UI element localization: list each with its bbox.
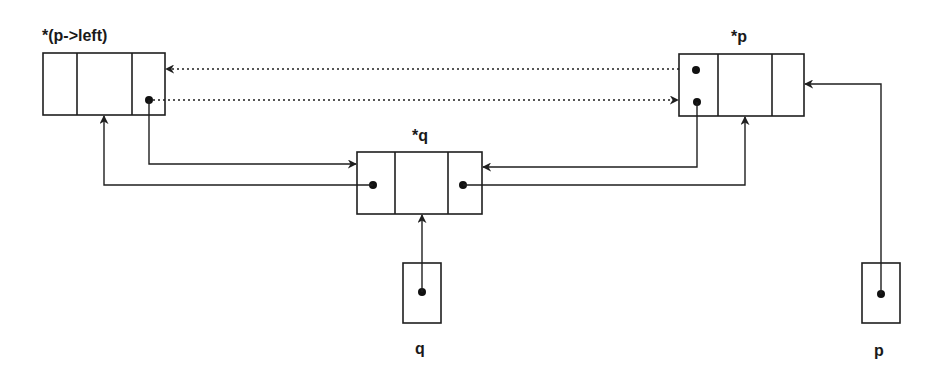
left-node-label: *(p->left) [42, 27, 107, 44]
arrow-left-node-to-q [149, 100, 356, 164]
p-pointer-label: p [874, 342, 884, 359]
p-node-box [679, 54, 804, 116]
left-node-box [43, 53, 165, 115]
arrow-q-to-p [463, 117, 745, 185]
left-node [43, 53, 165, 115]
p-node [679, 54, 804, 116]
linked-list-diagram: *(p->left) *p *q q p [0, 0, 947, 372]
q-pointer-label: q [415, 340, 425, 357]
q-node [357, 152, 482, 214]
arrow-q-to-left-node [104, 116, 373, 185]
p-node-label: *p [731, 28, 747, 45]
arrow-p-to-q [483, 102, 697, 167]
p-node-old-left-dot [692, 66, 700, 74]
q-node-label: *q [412, 127, 428, 144]
